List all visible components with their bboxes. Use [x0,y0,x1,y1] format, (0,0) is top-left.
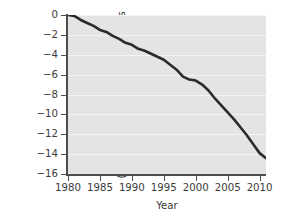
y-axis-tick-label: −14 [30,149,58,159]
x-axis-title: Year [68,200,266,211]
chart-figure: Mean cumulative mass of ice (water equiv… [0,0,285,219]
y-axis-tick-label: −2 [30,30,58,40]
data-series-line [68,15,266,174]
y-axis-tick [61,15,67,16]
y-axis-tick [61,114,67,115]
y-axis-tick-label: −8 [30,90,58,100]
plot-area [68,15,266,174]
y-axis-tick [61,154,67,155]
x-axis-tick [100,175,101,181]
y-axis-tick [61,35,67,36]
y-axis-tick-label: −10 [30,109,58,119]
y-axis-tick [61,174,67,175]
x-axis-line [66,174,266,176]
y-axis-tick-label: 0 [30,10,58,20]
x-axis-tick-label: 2010 [240,183,280,193]
y-axis-tick [61,95,67,96]
series-polyline [68,15,266,158]
x-axis-tick [164,175,165,181]
x-axis-tick [196,175,197,181]
y-axis-tick [61,134,67,135]
x-axis-tick [228,175,229,181]
y-axis-tick-label: −12 [30,129,58,139]
y-axis-tick-label: −4 [30,50,58,60]
y-axis-tick-label: −16 [30,169,58,179]
y-axis-tick [61,75,67,76]
x-axis-tick [260,175,261,181]
y-axis-tick-label: −6 [30,70,58,80]
x-axis-tick [132,175,133,181]
x-axis-tick [68,175,69,181]
y-axis-tick [61,55,67,56]
y-axis-title: Mean cumulative mass of ice (water equiv… [0,0,34,190]
